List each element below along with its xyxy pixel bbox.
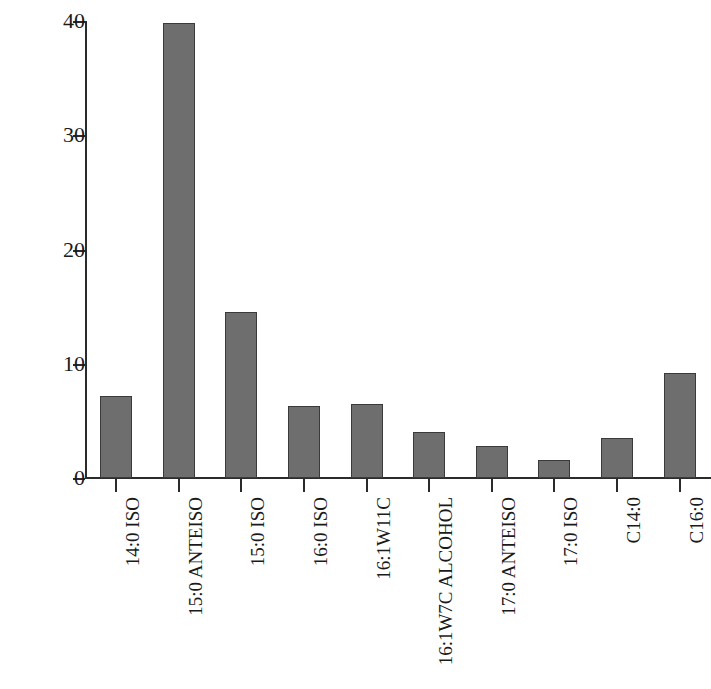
x-slot: 17:0 ANTEISO — [461, 479, 524, 689]
x-tick-mark — [303, 479, 305, 492]
x-tick-label: 17:0 ISO — [561, 497, 580, 566]
x-tick-mark — [428, 479, 430, 492]
bars-layer — [85, 21, 711, 478]
x-slot: 15:0 ISO — [210, 479, 273, 689]
x-slot: 15:0 ANTEISO — [148, 479, 211, 689]
bar — [476, 446, 508, 478]
bar-slot — [648, 21, 711, 478]
x-axis-ticks: 14:0 ISO15:0 ANTEISO15:0 ISO16:0 ISO16:1… — [85, 479, 711, 689]
x-tick-label: 15:0 ANTEISO — [186, 497, 205, 616]
x-tick-mark — [679, 479, 681, 492]
x-tick-mark — [240, 479, 242, 492]
y-tick-label: 40 — [27, 10, 85, 32]
bar-slot — [398, 21, 461, 478]
bar — [100, 396, 132, 478]
x-tick-label: C16:0 — [687, 497, 706, 543]
x-slot: 16:0 ISO — [273, 479, 336, 689]
x-tick-mark — [366, 479, 368, 492]
x-tick-label: 16:1W11C — [374, 497, 393, 580]
bar — [601, 438, 633, 478]
x-tick-label: 17:0 ANTEISO — [499, 497, 518, 616]
bar-chart: 脂肪酸含量/% 010203040 14:0 ISO15:0 ANTEISO15… — [0, 0, 711, 689]
x-slot: 14:0 ISO — [85, 479, 148, 689]
x-tick-label: 16:0 ISO — [311, 497, 330, 566]
y-tick-label: 20 — [27, 239, 85, 261]
x-tick-mark — [491, 479, 493, 492]
y-tick-label: 30 — [27, 124, 85, 146]
x-tick-label: 14:0 ISO — [123, 497, 142, 566]
x-tick-label: C14:0 — [624, 497, 643, 543]
x-slot: C14:0 — [586, 479, 649, 689]
bar-slot — [85, 21, 148, 478]
bar — [351, 404, 383, 478]
bar-slot — [461, 21, 524, 478]
x-tick-mark — [178, 479, 180, 492]
bar-slot — [148, 21, 211, 478]
y-tick-label: 0 — [27, 467, 85, 489]
bar-slot — [586, 21, 649, 478]
y-tick-label: 10 — [27, 353, 85, 375]
bar-slot — [210, 21, 273, 478]
x-slot: 17:0 ISO — [523, 479, 586, 689]
bar — [413, 432, 445, 478]
bar — [664, 373, 696, 478]
x-tick-label: 16:1W7C ALCOHOL — [436, 497, 455, 665]
bar-slot — [335, 21, 398, 478]
x-slot: C16:0 — [648, 479, 711, 689]
x-slot: 16:1W7C ALCOHOL — [398, 479, 461, 689]
x-tick-mark — [115, 479, 117, 492]
bar-slot — [273, 21, 336, 478]
bar — [538, 460, 570, 478]
x-slot: 16:1W11C — [335, 479, 398, 689]
x-tick-mark — [616, 479, 618, 492]
bar — [288, 406, 320, 478]
bar — [163, 23, 195, 478]
x-tick-mark — [553, 479, 555, 492]
bar — [225, 312, 257, 478]
bar-slot — [523, 21, 586, 478]
x-tick-label: 15:0 ISO — [248, 497, 267, 566]
